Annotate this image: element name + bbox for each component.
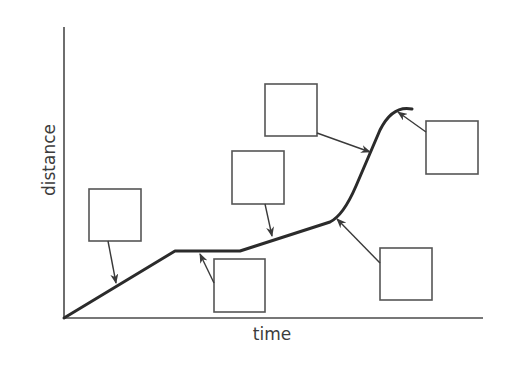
label-box-5[interactable] xyxy=(337,219,432,300)
distance-time-diagram: distance time xyxy=(0,0,510,368)
blank-label-box[interactable] xyxy=(214,259,265,312)
arrow-icon xyxy=(398,112,426,132)
x-axis-label: time xyxy=(253,324,291,344)
label-box-6[interactable] xyxy=(398,112,478,174)
arrow-icon xyxy=(317,133,370,152)
arrow-icon xyxy=(265,204,272,236)
label-box-3[interactable] xyxy=(232,151,284,236)
arrow-icon xyxy=(108,241,116,283)
blank-label-box[interactable] xyxy=(232,151,284,204)
label-box-4[interactable] xyxy=(265,84,370,152)
label-box-1[interactable] xyxy=(89,189,141,283)
label-box-2[interactable] xyxy=(200,254,265,312)
blank-label-box[interactable] xyxy=(380,248,432,300)
blank-label-box[interactable] xyxy=(426,121,478,174)
blank-label-box[interactable] xyxy=(265,84,317,136)
blank-label-box[interactable] xyxy=(89,189,141,241)
arrow-icon xyxy=(337,219,380,263)
y-axis-label: distance xyxy=(39,124,59,196)
arrow-icon xyxy=(200,254,214,283)
